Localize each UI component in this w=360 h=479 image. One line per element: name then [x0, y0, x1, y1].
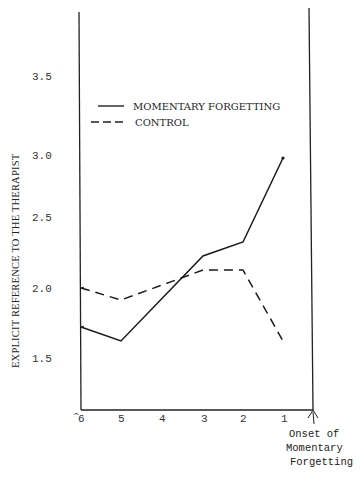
legend: MOMENTARY FORGETTING CONTROL [91, 101, 280, 128]
y-tick-label: 2.5 [32, 212, 52, 224]
x-tick-label: 3 [201, 413, 208, 425]
series-control [81, 270, 283, 341]
right-axis [309, 8, 313, 410]
legend-label-control: CONTROL [135, 117, 189, 128]
x-tick-label: 1 [281, 413, 288, 425]
x-tick-label: 5 [118, 413, 125, 425]
line-chart: 3.5 3.0 2.5 2.0 1.5 EXPLICIT REFERENCE T… [0, 0, 360, 479]
y-tick-label: 3.5 [32, 71, 52, 83]
y-tick-label: 1.5 [32, 353, 52, 365]
data-point [281, 156, 284, 159]
x-tick-label: 2 [240, 413, 247, 425]
y-tick-label: 3.0 [32, 150, 52, 162]
y-axis-title: EXPLICIT REFERENCE TO THE THERAPIST [10, 153, 21, 368]
left-axis [79, 12, 81, 410]
annotation-line-1: Onset of [289, 428, 339, 440]
legend-label-momentary: MOMENTARY FORGETTING [133, 101, 280, 112]
arrow-shaft [313, 412, 314, 424]
annotation-line-2: Momentary [286, 442, 343, 454]
onset-annotation: Onset of Momentary Forgetting [286, 410, 353, 468]
x-tick-caret: ^ [73, 411, 80, 420]
annotation-line-3: Forgetting [290, 456, 353, 468]
y-tick-label: 2.0 [32, 283, 52, 295]
series-momentary-forgetting [81, 158, 283, 341]
x-tick-label: 4 [159, 413, 166, 425]
